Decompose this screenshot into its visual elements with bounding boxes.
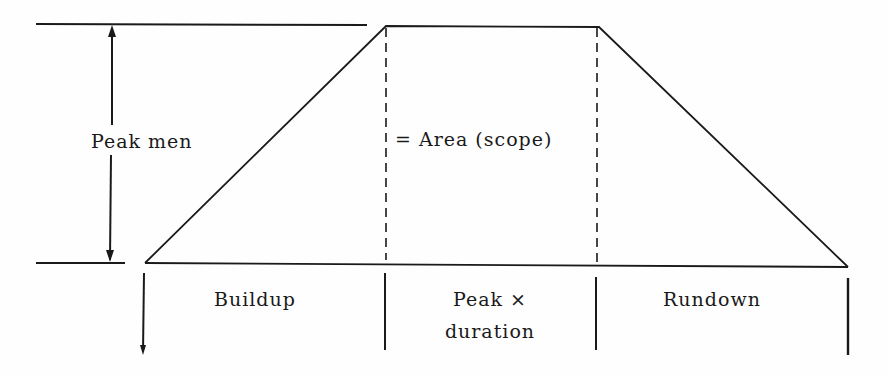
area-scope-label: = Area (scope) xyxy=(395,127,552,151)
arrowhead-phase-start-icon xyxy=(140,345,146,355)
arrowhead-down-icon xyxy=(106,250,114,262)
peak-duration-line1: Peak × xyxy=(400,287,580,311)
buildup-label: Buildup xyxy=(214,287,296,311)
rundown-label: Rundown xyxy=(663,287,761,311)
phase-divider-start xyxy=(143,273,144,352)
arrowhead-up-icon xyxy=(108,25,116,37)
baseline xyxy=(145,263,848,267)
peak-duration-label: Peak × duration xyxy=(400,287,580,343)
manpower-diagram: Peak men = Area (scope) Buildup Peak × d… xyxy=(0,0,888,375)
peak-reference-line xyxy=(36,24,367,25)
peak-men-label: Peak men xyxy=(91,129,193,153)
peak-men-arrow-down xyxy=(110,155,111,260)
peak-duration-line2: duration xyxy=(400,319,580,343)
